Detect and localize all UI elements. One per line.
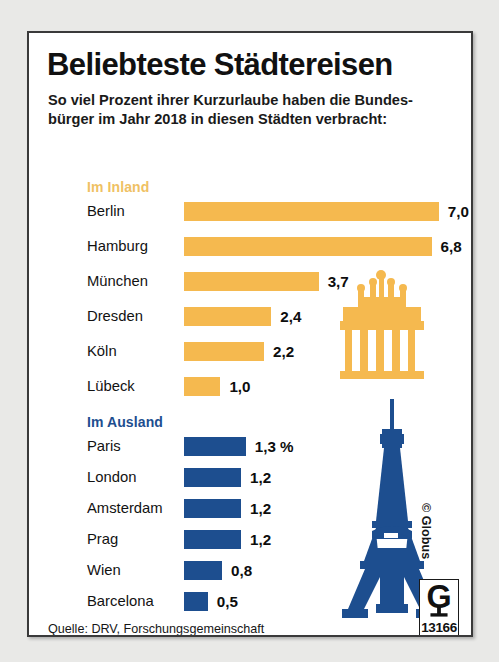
bar-value-ausland: 1,2: [250, 469, 271, 486]
bar-label-ausland: Wien: [87, 562, 121, 578]
page-title: Beliebteste Städtereisen: [47, 47, 393, 83]
bar-label-ausland: Amsterdam: [87, 500, 163, 516]
bar-ausland: [184, 592, 208, 611]
brandenburg-gate-icon: [318, 251, 446, 379]
bar-inland: [184, 342, 264, 361]
bar-inland: [184, 202, 439, 221]
bar-label-inland: München: [87, 273, 148, 289]
bar-value-inland: 7,0 %: [448, 203, 473, 220]
bar-value-inland: 2,2: [273, 343, 294, 360]
source-note: Quelle: DRV, Forschungsgemeinschaft Urla…: [48, 621, 292, 637]
bar-value-ausland: 1,2: [250, 531, 271, 548]
bar-ausland: [184, 561, 222, 580]
bar-inland: [184, 377, 220, 396]
bar-value-ausland: 0,5: [217, 593, 238, 610]
section-heading-ausland: Im Ausland: [87, 414, 163, 430]
globus-logo: G 13166: [419, 579, 459, 637]
bar-ausland: [184, 437, 246, 456]
chart-row-inland: Lübeck1,0: [29, 376, 471, 400]
subtitle-line-2: bürger im Jahr 2018 in diesen Städten ve…: [48, 110, 460, 129]
bar-value-ausland: 0,8: [231, 562, 252, 579]
bar-ausland: [184, 468, 241, 487]
globus-g-icon: G: [420, 578, 458, 620]
bar-label-inland: Dresden: [87, 308, 143, 324]
globus-logo-number: 13166: [420, 620, 458, 635]
bar-value-inland: 2,4: [280, 308, 301, 325]
bar-label-inland: Köln: [87, 343, 117, 359]
bar-label-ausland: Paris: [87, 438, 121, 454]
bar-ausland: [184, 499, 241, 518]
subtitle-line-1: So viel Prozent ihrer Kurzurlaube haben …: [48, 91, 460, 110]
bar-label-ausland: Prag: [87, 531, 118, 547]
bar-value-ausland: 1,3 %: [255, 438, 294, 455]
source-line-1: Quelle: DRV, Forschungsgemeinschaft: [48, 621, 292, 637]
bar-label-inland: Lübeck: [87, 378, 135, 394]
bar-value-ausland: 1,2: [250, 500, 271, 517]
bar-inland: [184, 307, 271, 326]
bar-inland: [184, 272, 319, 291]
bar-label-ausland: Barcelona: [87, 593, 154, 609]
chart-row-inland: Berlin7,0 %: [29, 201, 471, 225]
bar-ausland: [184, 530, 241, 549]
infographic-card: Beliebteste Städtereisen So viel Prozent…: [27, 31, 473, 637]
subtitle: So viel Prozent ihrer Kurzurlaube haben …: [48, 91, 460, 129]
bar-label-inland: Hamburg: [87, 238, 148, 254]
section-heading-inland: Im Inland: [87, 179, 149, 195]
bar-label-ausland: London: [87, 469, 136, 485]
bar-value-inland: 1,0: [229, 378, 250, 395]
bar-label-inland: Berlin: [87, 203, 125, 219]
